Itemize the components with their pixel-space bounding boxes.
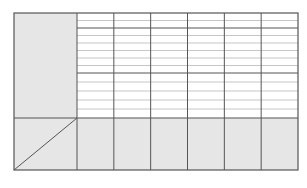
table-form (0, 0, 307, 188)
bottom-row-shading (14, 118, 298, 170)
label-column-shading (14, 13, 77, 118)
